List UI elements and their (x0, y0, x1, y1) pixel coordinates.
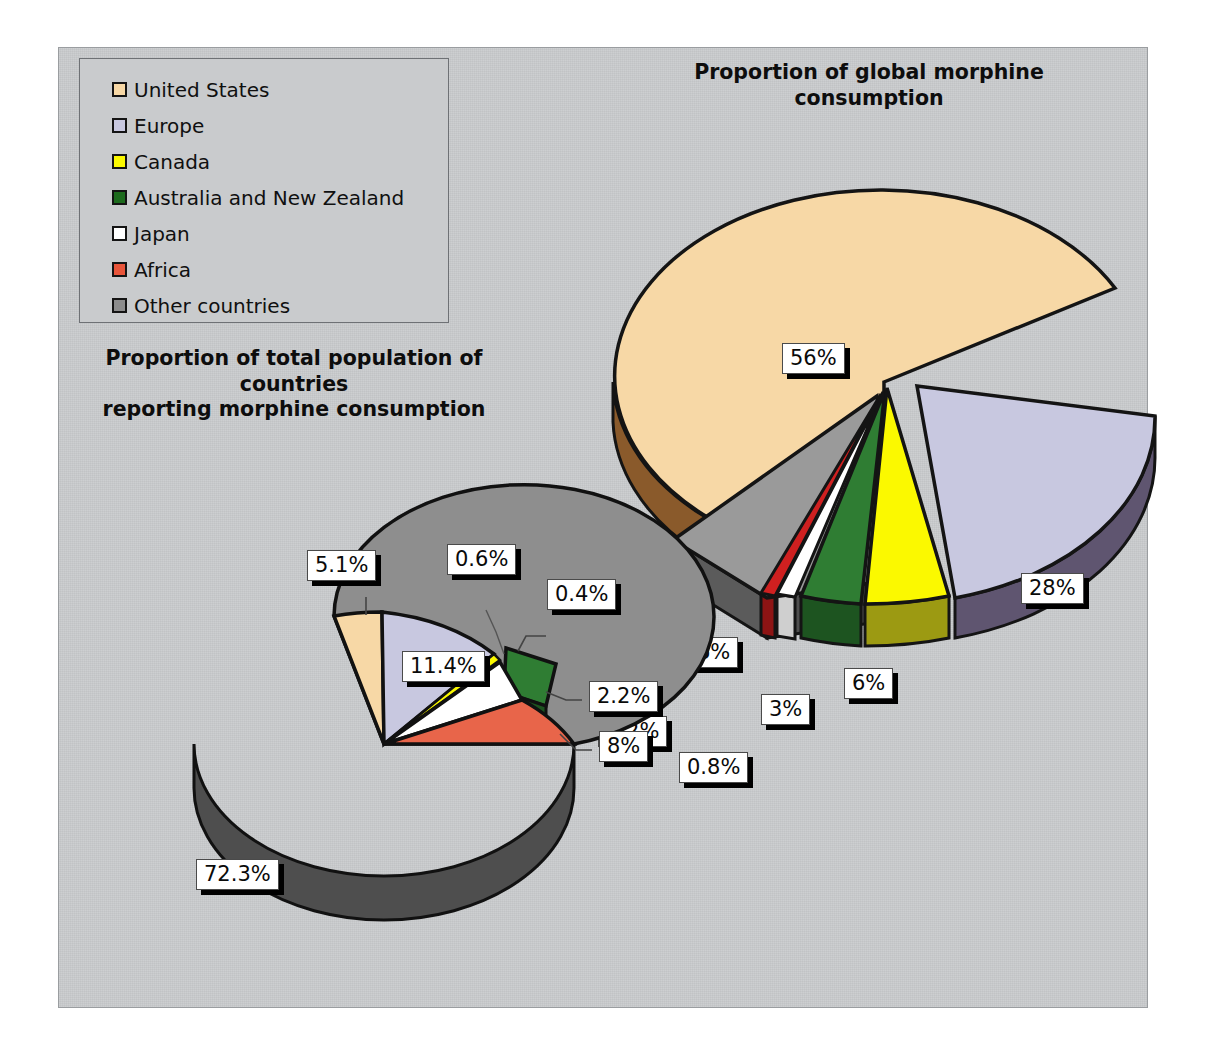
right-label-europe: 28% (1021, 573, 1084, 604)
legend-label-japan: Japan (134, 224, 190, 244)
legend-label-africa: Africa (134, 260, 191, 280)
population-of-reporting-countries-pie: 5.1% 11.4% 0.6% 0.4% 2.2% 8% 72.3% (174, 588, 594, 988)
right-slice-top-europe (917, 386, 1155, 598)
chart-frame: United States Europe Canada Australia an… (58, 47, 1148, 1008)
legend-label-europe: Europe (134, 116, 204, 136)
right-label-canada: 6% (844, 668, 893, 699)
legend-item-united-states: United States (112, 73, 448, 106)
left-pie-title: Proportion of total population of countr… (69, 346, 519, 423)
legend-item-japan: Japan (112, 217, 448, 250)
cut-off-caption (60, 0, 1060, 6)
right-label-australia-new-zealand: 3% (761, 694, 810, 725)
legend: United States Europe Canada Australia an… (79, 58, 449, 323)
legend-item-europe: Europe (112, 109, 448, 142)
legend-swatch-europe (112, 118, 127, 133)
legend-label-other-countries: Other countries (134, 296, 290, 316)
left-pie-title-line2: reporting morphine consumption (103, 397, 486, 421)
right-label-japan: 0.8% (679, 752, 748, 783)
left-pie-svg (174, 588, 594, 988)
left-label-other-countries: 72.3% (196, 859, 279, 890)
right-pie-title: Proportion of global morphine consumptio… (659, 60, 1079, 111)
left-label-japan: 2.2% (589, 681, 658, 712)
right-label-united-states: 56% (782, 343, 845, 374)
legend-swatch-united-states (112, 82, 127, 97)
legend-swatch-canada (112, 154, 127, 169)
right-pie-title-line2: consumption (794, 86, 943, 110)
legend-swatch-australia-new-zealand (112, 190, 127, 205)
legend-swatch-other-countries (112, 298, 127, 313)
left-label-europe: 11.4% (402, 651, 485, 682)
left-label-africa: 8% (599, 731, 648, 762)
left-slice-top-united-states (334, 612, 384, 744)
right-slice-side-africa (761, 593, 775, 638)
right-pie-title-line1: Proportion of global morphine (694, 60, 1044, 84)
left-pie-title-line1: Proportion of total population of countr… (105, 346, 482, 396)
left-label-canada: 0.6% (447, 544, 516, 575)
legend-label-australia-new-zealand: Australia and New Zealand (134, 188, 404, 208)
legend-item-canada: Canada (112, 145, 448, 178)
left-label-united-states: 5.1% (307, 550, 376, 581)
legend-swatch-japan (112, 226, 127, 241)
legend-item-australia-new-zealand: Australia and New Zealand (112, 181, 448, 214)
legend-item-africa: Africa (112, 253, 448, 286)
right-slice-side-japan (777, 594, 795, 639)
legend-label-canada: Canada (134, 152, 210, 172)
legend-label-united-states: United States (134, 80, 269, 100)
legend-swatch-africa (112, 262, 127, 277)
left-label-australia-new-zealand: 0.4% (547, 579, 616, 610)
legend-item-other-countries: Other countries (112, 289, 448, 322)
